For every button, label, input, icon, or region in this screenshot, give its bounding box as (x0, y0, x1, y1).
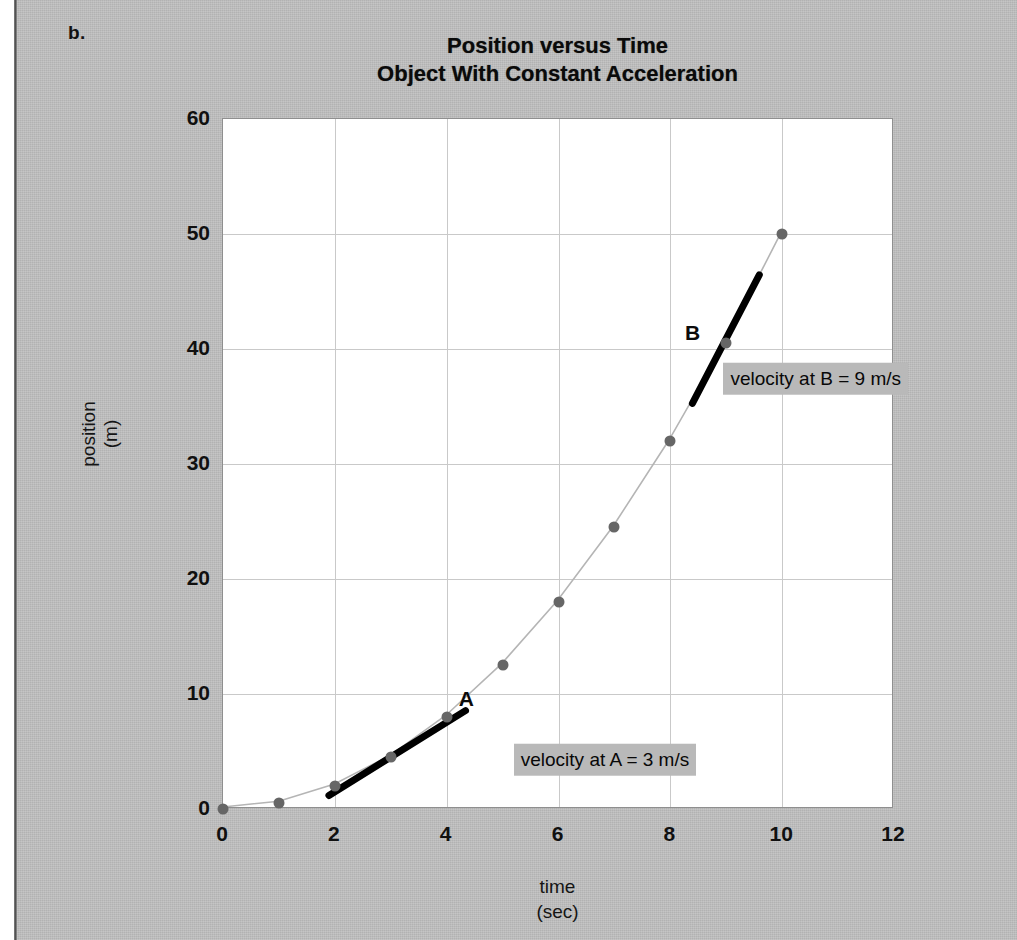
tangent-line-a (329, 711, 466, 796)
data-point (777, 229, 788, 240)
y-axis-tick-label: 40 (150, 336, 210, 360)
y-axis-title: position (m) (70, 354, 130, 514)
data-point (218, 804, 229, 815)
x-axis-tick-label: 8 (639, 822, 699, 846)
x-axis-tick-label: 10 (751, 822, 811, 846)
data-point (609, 522, 620, 533)
data-point (441, 712, 452, 723)
y-axis-tick-labels: 0102030405060 (148, 118, 210, 808)
figure-page: b. Position versus Time Object With Cons… (0, 0, 1017, 940)
x-axis-title: time (sec) (222, 875, 893, 924)
y-axis-tick-label: 0 (150, 796, 210, 820)
data-point (721, 338, 732, 349)
y-axis-tick-label: 60 (150, 106, 210, 130)
data-point (553, 597, 564, 608)
y-axis-tick-label: 10 (150, 681, 210, 705)
data-point (497, 660, 508, 671)
data-curve-layer (223, 119, 892, 807)
x-axis-tick-label: 2 (304, 822, 364, 846)
part-label: b. (68, 22, 86, 44)
data-point (329, 781, 340, 792)
annotation-letter-b: B (685, 321, 700, 345)
x-axis-tick-label: 12 (863, 822, 923, 846)
plot-area: Avelocity at A = 3 m/sBvelocity at B = 9… (222, 118, 893, 808)
page-spine-line (14, 0, 17, 940)
annotation-callout-b: velocity at B = 9 m/s (723, 363, 908, 396)
y-axis-title-line-1: position (78, 401, 99, 467)
y-axis-tick-label: 30 (150, 451, 210, 475)
x-axis-tick-labels: 024681012 (222, 822, 893, 856)
x-axis-tick-label: 6 (528, 822, 588, 846)
y-axis-tick-label: 50 (150, 221, 210, 245)
x-axis-tick-label: 4 (416, 822, 476, 846)
y-axis-title-line-2: (m) (100, 420, 121, 448)
annotation-letter-a: A (459, 687, 474, 711)
x-axis-tick-label: 0 (192, 822, 252, 846)
data-point (385, 752, 396, 763)
chart-title: Position versus Time Object With Constan… (222, 32, 893, 87)
chart-title-line-1: Position versus Time (447, 33, 668, 58)
y-axis-tick-label: 20 (150, 566, 210, 590)
chart-title-line-2: Object With Constant Acceleration (222, 60, 893, 88)
annotation-callout-a: velocity at A = 3 m/s (514, 743, 696, 776)
data-point (273, 798, 284, 809)
series-line (223, 234, 780, 807)
x-axis-title-line-1: time (540, 876, 576, 897)
data-point (665, 436, 676, 447)
x-axis-title-line-2: (sec) (222, 900, 893, 925)
